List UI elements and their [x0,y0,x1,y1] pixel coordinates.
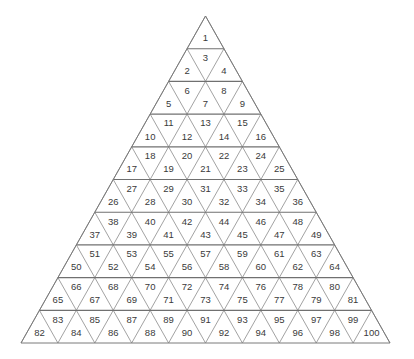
triangle-cell-label: 85 [90,314,101,325]
triangle-cell-label: 4 [221,65,226,76]
triangle-cell-label: 60 [256,261,267,272]
triangle-cell-label: 5 [166,98,171,109]
triangle-cell-label: 80 [329,281,340,292]
triangle-cell-label: 30 [182,196,193,207]
triangle-cell-label: 12 [182,131,193,142]
triangle-cell-label: 46 [256,216,267,227]
triangle-cell-label: 31 [200,183,211,194]
triangle-cell-label: 16 [256,131,267,142]
cell-labels-layer: 1234567891011121314151617181920212223242… [34,32,379,337]
triangle-cell-label: 100 [364,327,380,338]
triangle-cell-label: 37 [90,229,101,240]
triangle-cell-label: 10 [145,131,156,142]
triangle-cell-label: 44 [219,216,230,227]
triangle-cell-label: 8 [221,85,226,96]
triangle-cell-label: 90 [182,327,193,338]
triangle-cell-label: 20 [182,150,193,161]
triangle-cell-label: 22 [219,150,230,161]
triangle-cell-label: 66 [71,281,82,292]
triangle-cell-label: 84 [71,327,82,338]
triangle-cell-label: 43 [200,229,211,240]
triangle-cell-label: 45 [237,229,248,240]
triangle-cell-label: 19 [163,163,174,174]
triangle-cell-label: 48 [292,216,303,227]
triangle-cell-label: 26 [108,196,119,207]
triangle-cell-label: 98 [329,327,340,338]
triangle-cell-label: 97 [311,314,322,325]
triangle-cell-label: 28 [145,196,156,207]
triangle-cell-label: 42 [182,216,193,227]
triangle-cell-label: 62 [292,261,303,272]
triangle-cell-label: 27 [126,183,137,194]
triangle-cell-label: 56 [182,261,193,272]
triangle-cell-label: 64 [329,261,340,272]
triangle-cell-label: 11 [164,117,174,128]
triangle-cell-label: 9 [240,98,245,109]
triangle-cell-label: 68 [108,281,119,292]
triangle-cell-label: 1 [203,32,208,43]
triangle-cell-label: 53 [126,248,137,259]
triangle-cell-label: 49 [311,229,322,240]
triangle-cell-label: 83 [53,314,64,325]
triangle-cell-label: 77 [274,294,285,305]
triangle-cell-label: 55 [163,248,174,259]
triangle-cell-label: 36 [292,196,303,207]
triangle-cell-label: 63 [311,248,322,259]
triangle-cell-label: 87 [126,314,137,325]
triangle-cell-label: 93 [237,314,248,325]
triangle-cell-label: 95 [274,314,285,325]
triangle-cell-label: 91 [200,314,211,325]
triangle-cell-label: 47 [274,229,285,240]
triangle-cell-label: 72 [182,281,193,292]
triangle-cell-label: 39 [126,229,137,240]
triangle-cell-label: 40 [145,216,156,227]
triangle-figure: 1234567891011121314151617181920212223242… [0,0,414,359]
triangle-cell-label: 65 [53,294,64,305]
triangle-cell-label: 96 [292,327,303,338]
triangle-cell-label: 15 [237,117,248,128]
triangle-cell-label: 54 [145,261,156,272]
triangle-cell-label: 61 [274,248,285,259]
triangle-cell-label: 50 [71,261,82,272]
triangle-cell-label: 29 [163,183,174,194]
triangle-cell-label: 2 [184,65,189,76]
triangle-cell-label: 71 [163,294,174,305]
triangle-cell-label: 79 [311,294,322,305]
triangle-cell-label: 51 [90,248,101,259]
triangle-cell-label: 81 [348,294,359,305]
triangle-cell-label: 32 [219,196,230,207]
row-divider-layer [39,49,371,311]
triangle-cell-label: 92 [219,327,230,338]
triangle-cell-label: 70 [145,281,156,292]
triangle-cell-label: 78 [292,281,303,292]
triangle-cell-label: 99 [348,314,359,325]
triangle-cell-label: 25 [274,163,285,174]
triangle-cell-label: 59 [237,248,248,259]
triangle-cell-label: 24 [256,150,267,161]
triangle-cell-label: 23 [237,163,248,174]
triangle-cell-label: 14 [219,131,230,142]
triangle-cell-label: 17 [126,163,137,174]
triangle-cell-label: 88 [145,327,156,338]
triangle-cell-label: 57 [200,248,211,259]
triangle-cell-label: 13 [200,117,211,128]
triangle-cell-label: 82 [34,327,45,338]
triangle-cell-label: 75 [237,294,248,305]
triangle-cell-label: 7 [203,98,208,109]
triangle-cell-label: 3 [203,52,208,63]
triangle-cell-label: 6 [184,85,189,96]
triangle-cell-label: 33 [237,183,248,194]
triangle-cell-label: 89 [163,314,174,325]
triangle-cell-label: 58 [219,261,230,272]
triangle-cell-label: 86 [108,327,119,338]
triangle-cell-label: 34 [256,196,267,207]
triangle-cell-label: 73 [200,294,211,305]
triangle-cell-label: 94 [256,327,267,338]
triangle-cell-label: 74 [219,281,230,292]
triangle-cell-label: 76 [256,281,267,292]
triangle-cell-label: 21 [200,163,211,174]
triangle-cell-label: 69 [126,294,137,305]
triangle-cell-label: 35 [274,183,285,194]
triangle-cell-label: 52 [108,261,119,272]
triangle-cell-label: 67 [90,294,101,305]
